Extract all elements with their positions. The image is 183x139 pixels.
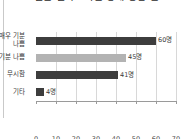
- gridline: [156, 32, 157, 101]
- bar[interactable]: [36, 54, 126, 62]
- category-label: 매우 기분 나쁨: [0, 33, 25, 48]
- x-axis-line: [36, 101, 176, 102]
- chart-plot-area: 매우 기분 나쁨기분 나쁨무시함기타 60명45명41명4명 010203040…: [36, 32, 176, 101]
- x-tick-label: 30: [88, 135, 104, 139]
- bar[interactable]: [36, 88, 44, 96]
- chart-title-text: 설문 결과 - 기분 상태 응답 분포: [26, 0, 176, 3]
- bar-value-label: 60명: [158, 36, 172, 44]
- tick-mark: [116, 101, 117, 104]
- category-label: 기분 나쁨: [0, 54, 25, 62]
- tick-mark: [56, 101, 57, 104]
- x-tick-label: 70: [168, 135, 183, 139]
- x-tick-label: 20: [68, 135, 84, 139]
- gridline: [176, 32, 177, 101]
- bar[interactable]: [36, 71, 118, 79]
- category-label: 기타: [0, 89, 25, 97]
- tick-mark: [156, 101, 157, 104]
- bar-value-label: 4명: [46, 88, 56, 96]
- x-tick-label: 10: [48, 135, 64, 139]
- bar[interactable]: [36, 37, 156, 45]
- category-label: 무시함: [0, 71, 25, 79]
- tick-mark: [136, 101, 137, 104]
- x-tick-label: 50: [128, 135, 144, 139]
- bar-value-label: 41명: [120, 71, 134, 79]
- tick-mark: [96, 101, 97, 104]
- x-tick-label: 40: [108, 135, 124, 139]
- x-tick-label: 0: [28, 135, 44, 139]
- chart-page: 설문 결과 - 기분 상태 응답 분포 매우 기분 나쁨기분 나쁨무시함기타 6…: [0, 0, 183, 139]
- chart-title-clipped: 설문 결과 - 기분 상태 응답 분포: [26, 0, 176, 4]
- tick-mark: [36, 101, 37, 104]
- x-tick-label: 60: [148, 135, 164, 139]
- tick-mark: [176, 101, 177, 104]
- bar-value-label: 45명: [128, 53, 142, 61]
- tick-mark: [76, 101, 77, 104]
